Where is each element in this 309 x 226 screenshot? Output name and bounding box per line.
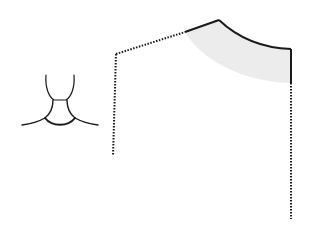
diagram-canvas <box>0 0 309 226</box>
neck-shoulders-icon <box>22 75 98 125</box>
neckline-highlight <box>185 20 291 83</box>
shoulder-right <box>75 118 98 125</box>
collar-curve <box>45 118 75 125</box>
neck-right <box>67 100 75 118</box>
shoulder-left <box>22 118 45 125</box>
neck-left <box>45 100 53 118</box>
pattern-piece <box>113 20 291 219</box>
left-shoulder-line <box>116 32 185 54</box>
diagram-svg <box>0 0 309 226</box>
head-outline <box>46 75 74 100</box>
left-side-seam <box>113 54 116 156</box>
